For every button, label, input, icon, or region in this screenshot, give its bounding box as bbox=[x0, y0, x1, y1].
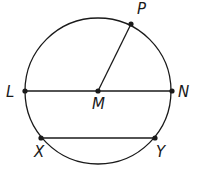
label-X: X bbox=[33, 143, 45, 161]
point-P bbox=[128, 21, 133, 26]
circle-diagram: P L M N X Y bbox=[0, 0, 198, 176]
point-X bbox=[38, 135, 43, 140]
label-L: L bbox=[6, 83, 14, 101]
radius-MP bbox=[98, 24, 131, 91]
point-L bbox=[22, 88, 27, 93]
label-N: N bbox=[178, 83, 189, 101]
point-Y bbox=[152, 135, 157, 140]
point-M bbox=[95, 88, 100, 93]
point-N bbox=[169, 88, 174, 93]
label-M: M bbox=[92, 95, 105, 113]
label-Y: Y bbox=[156, 143, 167, 161]
label-P: P bbox=[137, 0, 147, 18]
